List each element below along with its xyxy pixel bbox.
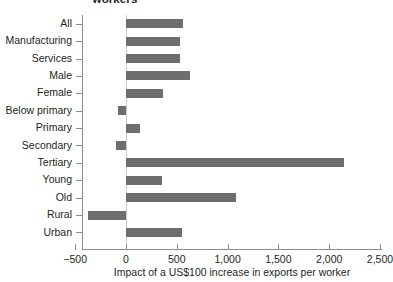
bar — [126, 193, 236, 202]
category-label: Secondary — [0, 140, 72, 151]
x-axis-tick — [329, 244, 330, 250]
y-axis-tick — [76, 111, 82, 112]
y-axis-tick — [76, 128, 82, 129]
y-axis-tick — [76, 93, 82, 94]
category-label: Manufacturing — [0, 35, 72, 46]
category-label: Male — [0, 70, 72, 81]
category-label: Tertiary — [0, 157, 72, 168]
category-label: Primary — [0, 122, 72, 133]
y-axis-tick — [76, 198, 82, 199]
x-axis-tick — [126, 244, 127, 250]
y-axis-tick — [76, 41, 82, 42]
bar — [126, 124, 140, 133]
x-axis-tick-label: −500 — [63, 253, 87, 265]
bar — [126, 37, 180, 46]
category-label: Services — [0, 53, 72, 64]
y-axis-tick — [76, 76, 82, 77]
x-axis-tick — [380, 244, 381, 250]
chart-page: workers AllManufacturingServicesMaleFema… — [0, 0, 393, 282]
bar — [126, 158, 344, 167]
y-axis-tick — [76, 232, 82, 233]
y-axis-tick — [76, 180, 82, 181]
bar — [126, 89, 163, 98]
y-axis-tick — [76, 145, 82, 146]
x-axis-tick — [75, 244, 76, 250]
bar — [126, 19, 183, 28]
bar — [126, 228, 182, 237]
x-axis-tick — [228, 244, 229, 250]
bar — [88, 211, 126, 220]
x-axis-tick — [278, 244, 279, 250]
y-axis-line — [82, 15, 83, 249]
y-axis-tick — [76, 24, 82, 25]
category-label: Rural — [0, 209, 72, 220]
bar — [118, 106, 126, 115]
x-axis-tick-label: 2,000 — [316, 253, 342, 265]
x-axis-title: Impact of a US$100 increase in exports p… — [82, 266, 382, 278]
x-axis-tick-label: 500 — [168, 253, 186, 265]
category-label: All — [0, 18, 72, 29]
bar — [126, 71, 190, 80]
x-axis-tick — [177, 244, 178, 250]
x-axis-tick-label: 2,500 — [367, 253, 393, 265]
category-label: Female — [0, 87, 72, 98]
y-axis-tick — [76, 59, 82, 60]
x-axis-line — [82, 249, 382, 250]
bar — [126, 176, 162, 185]
category-label: Young — [0, 174, 72, 185]
category-label: Old — [0, 192, 72, 203]
x-axis-tick-label: 1,000 — [214, 253, 240, 265]
x-axis-tick-label: 1,500 — [265, 253, 291, 265]
category-label: Urban — [0, 227, 72, 238]
y-axis-tick — [76, 215, 82, 216]
bar — [126, 54, 180, 63]
y-axis-tick — [76, 163, 82, 164]
x-axis-tick-label: 0 — [123, 253, 129, 265]
bar — [116, 141, 126, 150]
plot-area: AllManufacturingServicesMaleFemaleBelow … — [0, 0, 393, 282]
category-label: Below primary — [0, 105, 72, 116]
